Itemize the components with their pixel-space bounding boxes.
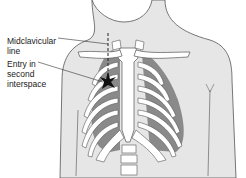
entry-point-label: Entry in second interspace (7, 59, 52, 89)
midclavicular-line-label: Midclavicular line (7, 36, 62, 56)
chest-illustration (0, 0, 246, 178)
spine (121, 145, 137, 175)
chest-anatomy-diagram: Midclavicular line Entry in second inter… (0, 0, 246, 178)
